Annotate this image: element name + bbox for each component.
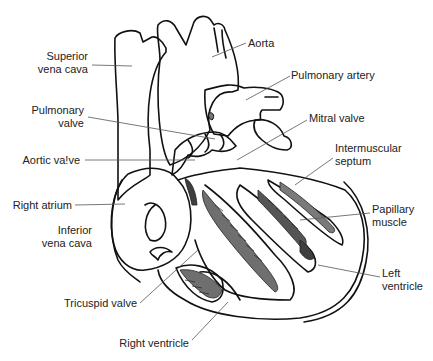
heart-diagram: Superiorvena cavaPulmonaryvalveAortic va… (0, 0, 433, 361)
label-text: Aorta (248, 37, 288, 50)
label-text: Pulmonary (10, 104, 84, 117)
label-text: Left (382, 267, 432, 280)
label-intermuscular-septum: Intermuscularseptum (335, 142, 427, 168)
label-text: Superior (10, 50, 88, 63)
fossa-ovalis (145, 203, 166, 241)
label-inferior-vena-cava: Inferiorvena cava (10, 224, 92, 250)
label-superior-vena-cava: Superiorvena cava (10, 50, 88, 76)
label-left-ventricle: Leftventricle (382, 267, 432, 293)
leader-line-right-atrium (75, 204, 125, 205)
label-text: Right ventricle (110, 337, 189, 350)
leader-line-right-ventricle (192, 302, 228, 340)
label-papillary-muscle: Papillarymuscle (372, 203, 432, 229)
label-text: Aortic va!ve (10, 154, 80, 167)
label-text: Tricuspid valve (40, 297, 137, 310)
label-text: Papillary (372, 203, 432, 216)
pulmonary-artery-shape (205, 85, 283, 136)
leader-lines (75, 43, 380, 340)
label-text: Pulmonary artery (291, 69, 391, 82)
label-text: Right atrium (5, 199, 72, 212)
label-aorta: Aorta (248, 37, 288, 50)
label-right-ventricle: Right ventricle (110, 337, 189, 350)
aorta-shape (157, 16, 238, 165)
label-text: vena cava (10, 63, 88, 76)
leader-line-mitral-valve (237, 120, 307, 160)
label-right-atrium: Right atrium (5, 199, 72, 212)
label-mitral-valve: Mitral valve (309, 112, 379, 125)
label-pulmonary-valve: Pulmonaryvalve (10, 104, 84, 130)
label-pulmonary-artery: Pulmonary artery (291, 69, 391, 82)
label-text: Inferior (10, 224, 92, 237)
leader-line-superior-vena-cava (92, 65, 132, 66)
label-text: valve (10, 117, 84, 130)
label-text: Intermuscular (335, 142, 427, 155)
label-text: vena cava (10, 237, 92, 250)
label-aortic-valve: Aortic va!ve (10, 154, 80, 167)
inferior-vena-cava-shape (150, 248, 172, 261)
label-tricuspid-valve: Tricuspid valve (40, 297, 137, 310)
shaded-muscle (180, 178, 335, 298)
label-text: ventricle (382, 280, 432, 293)
label-text: muscle (372, 216, 432, 229)
label-text: septum (335, 155, 427, 168)
mitral-valve-shape (254, 120, 291, 150)
right-atrium-shape (111, 168, 191, 270)
label-text: Mitral valve (309, 112, 379, 125)
valve-cusps (172, 132, 236, 175)
leader-line-pulmonary-valve (88, 117, 215, 139)
leader-line-left-ventricle (318, 265, 380, 277)
